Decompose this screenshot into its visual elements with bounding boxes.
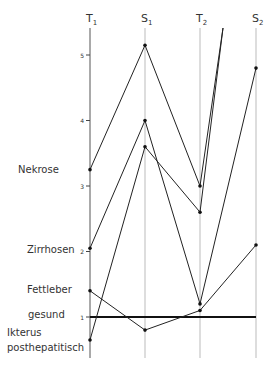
diagnosis-labels: NekroseZirrhosenFettlebergesundIkteruspo…: [7, 164, 84, 353]
data-point: [143, 119, 147, 123]
y-tick-label: 4: [80, 117, 84, 124]
data-point: [198, 302, 202, 306]
diagnosis-label: gesund: [28, 309, 65, 320]
data-point: [254, 66, 258, 70]
y-tick-label: 1: [80, 314, 84, 321]
data-point: [88, 168, 92, 172]
diagnosis-label: Fettleber: [27, 284, 73, 295]
y-tick-label: 2: [80, 248, 84, 255]
data-series: [88, 28, 258, 342]
data-point: [254, 243, 258, 247]
category-label-t1: T1: [85, 12, 97, 27]
y-tick-label: 5: [80, 52, 84, 59]
data-point: [198, 184, 202, 188]
data-point: [88, 338, 92, 342]
category-label-t2: T2: [195, 12, 207, 27]
data-point: [143, 145, 147, 149]
chart: 12345 T1S1T2S2 NekroseZirrhosenFettleber…: [0, 0, 269, 369]
category-labels: T1S1T2S2: [85, 12, 263, 27]
diagnosis-label: posthepatitisch: [7, 342, 84, 353]
data-point: [88, 246, 92, 250]
data-point: [143, 328, 147, 332]
diagnosis-label: Nekrose: [18, 164, 59, 175]
data-point: [198, 210, 202, 214]
category-label-s2: S2: [252, 12, 263, 27]
series-line: [90, 68, 256, 304]
data-point: [88, 289, 92, 293]
diagnosis-label: Zirrhosen: [27, 244, 75, 255]
data-point: [143, 43, 147, 47]
category-label-s1: S1: [141, 12, 152, 27]
y-tick-label: 3: [80, 183, 84, 190]
diagnosis-label: Ikterus: [7, 327, 41, 338]
y-ticks: 12345: [80, 52, 90, 321]
data-point: [198, 309, 202, 313]
series-line: [90, 28, 223, 186]
